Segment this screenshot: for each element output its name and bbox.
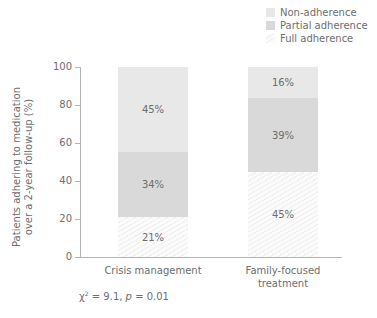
x-category-label-family-focused: Family-focused treatment xyxy=(223,264,343,290)
bar-segment-full-adherence: 21% xyxy=(118,217,188,257)
chi-value: = 9.1, xyxy=(89,291,126,302)
y-tick-label: 0 xyxy=(42,252,72,262)
y-axis-label-line1: Patients adhering to medication xyxy=(11,87,23,247)
y-tick-label: 80 xyxy=(42,100,72,110)
y-tick xyxy=(75,105,80,106)
bar-segment-full-adherence: 45% xyxy=(248,172,318,257)
data-label: 21% xyxy=(142,232,164,243)
y-tick xyxy=(75,257,80,258)
legend-item-partial-adherence: Partial adherence xyxy=(266,19,368,32)
category-label-line2: treatment xyxy=(223,277,343,290)
x-axis-line xyxy=(80,257,342,258)
legend-label: Non-adherence xyxy=(280,6,357,19)
bar-crisis-management: 45% 34% 21% xyxy=(118,67,188,257)
x-category-label-crisis-management: Crisis management xyxy=(93,264,213,277)
chart-legend: Non-adherence Partial adherence Full adh… xyxy=(266,6,368,45)
y-tick-label: 100 xyxy=(42,62,72,72)
y-axis-line xyxy=(80,67,81,258)
y-tick xyxy=(75,67,80,68)
bar-segment-non-adherence: 16% xyxy=(248,67,318,98)
y-tick xyxy=(75,219,80,220)
data-label: 16% xyxy=(272,77,294,88)
legend-swatch-full-adherence xyxy=(266,34,275,43)
data-label: 45% xyxy=(272,209,294,220)
y-axis-label: Patients adhering to medication over a 2… xyxy=(5,92,41,242)
bar-segment-non-adherence: 45% xyxy=(118,67,188,152)
y-tick-label: 40 xyxy=(42,176,72,186)
bar-family-focused-treatment: 16% 39% 45% xyxy=(248,67,318,257)
y-tick xyxy=(75,181,80,182)
legend-swatch-non-adherence xyxy=(266,8,275,17)
y-axis-label-line2: over a 2-year follow-up (%) xyxy=(23,87,35,247)
legend-label: Full adherence xyxy=(280,32,353,45)
y-tick xyxy=(75,143,80,144)
p-value: = 0.01 xyxy=(132,291,169,302)
legend-item-non-adherence: Non-adherence xyxy=(266,6,368,19)
category-label-line1: Family-focused xyxy=(223,264,343,277)
y-tick-label: 60 xyxy=(42,138,72,148)
bar-segment-partial-adherence: 34% xyxy=(118,152,188,217)
statistic-annotation: χ2 = 9.1, p = 0.01 xyxy=(79,290,169,302)
legend-swatch-partial-adherence xyxy=(266,21,275,30)
data-label: 34% xyxy=(142,179,164,190)
category-label-line1: Crisis management xyxy=(93,264,213,277)
legend-item-full-adherence: Full adherence xyxy=(266,32,368,45)
bar-segment-partial-adherence: 39% xyxy=(248,98,318,172)
legend-label: Partial adherence xyxy=(280,19,368,32)
y-tick-label: 20 xyxy=(42,214,72,224)
data-label: 45% xyxy=(142,104,164,115)
data-label: 39% xyxy=(272,130,294,141)
